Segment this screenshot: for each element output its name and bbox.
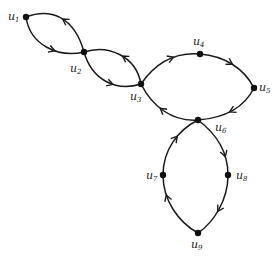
edge-u3-u4 <box>141 54 200 84</box>
edge-u7-u6 <box>163 120 198 175</box>
edge-u9-u7 <box>163 175 198 233</box>
node-u3 <box>138 81 144 87</box>
node-u6 <box>195 117 201 123</box>
edge-u8-u9 <box>198 175 228 233</box>
node-label-u3: u3 <box>130 90 142 104</box>
node-label-u6: u6 <box>215 121 227 135</box>
node-label-u1: u1 <box>8 10 20 24</box>
node-label-u8: u8 <box>236 169 248 183</box>
node-u5 <box>251 85 257 91</box>
edge-u2-u3 <box>84 52 141 86</box>
node-u7 <box>160 172 166 178</box>
node-label-u2: u2 <box>70 62 82 76</box>
edge-u1-u2 <box>26 17 84 53</box>
edge-u3-u2 <box>84 50 141 84</box>
node-u9 <box>195 230 201 236</box>
graph-svg: u1u2u3u4u5u6u7u8u9 <box>0 0 276 256</box>
nodes-layer: u1u2u3u4u5u6u7u8u9 <box>8 10 271 252</box>
graph-diagram: u1u2u3u4u5u6u7u8u9 <box>0 0 276 256</box>
node-label-u5: u5 <box>259 81 271 95</box>
node-u8 <box>225 172 231 178</box>
edge-u4-u5 <box>200 54 254 88</box>
edge-u2-u1 <box>26 14 84 52</box>
node-u1 <box>23 14 29 20</box>
edge-u5-u6 <box>198 88 254 120</box>
node-label-u7: u7 <box>146 169 158 183</box>
node-u4 <box>197 51 203 57</box>
edge-u6-u3 <box>141 84 198 120</box>
node-u2 <box>81 49 87 55</box>
node-label-u4: u4 <box>193 35 205 49</box>
node-label-u9: u9 <box>191 238 203 252</box>
